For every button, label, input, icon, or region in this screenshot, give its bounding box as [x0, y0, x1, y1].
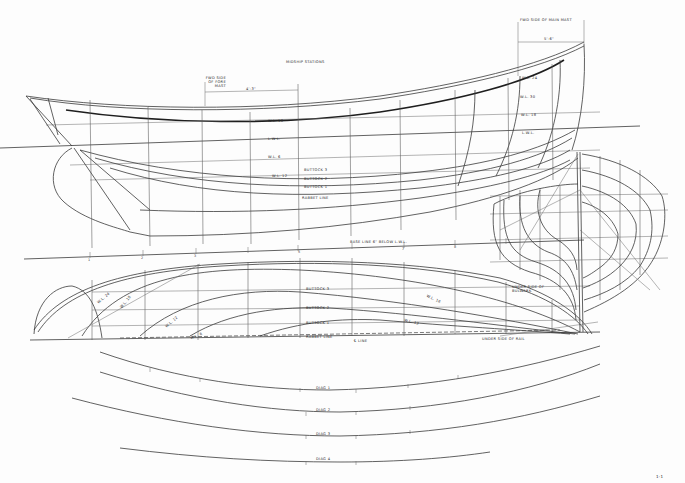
label-fwd-side-main-mast: FWD SIDE OF MAIN MAST: [520, 18, 572, 22]
station-5: 5: [298, 250, 300, 254]
label-lwl: L.W.L.: [268, 137, 280, 141]
label-under-side-rail: UNDER SIDE OF RAIL: [482, 337, 525, 341]
label-stern-wl-18: W.L. 18: [521, 113, 536, 117]
label-stern-lwl: L.W.L.: [522, 131, 534, 135]
station-2: 2: [141, 256, 143, 260]
station-1: 1: [88, 258, 90, 262]
label-wl-18: W.L. 18: [268, 119, 283, 123]
station-3: 3: [194, 254, 196, 258]
label-hb-buttock-1: BUTTOCK 1: [306, 321, 329, 325]
diagonals-view: [72, 346, 600, 465]
lines-drawing-sheet: FWD SIDE OF MAIN MAST 5'-6" FWD SIDE OF …: [0, 0, 685, 483]
label-rabbet-line: RABBET LINE: [302, 196, 329, 200]
label-hb-buttock-3: BUTTOCK 3: [306, 287, 329, 291]
body-plan-sheer-aft: [582, 154, 665, 312]
diag-2: [100, 364, 600, 412]
body-plan-sheer-fwd: [494, 184, 578, 204]
label-fore-mast-dim: 4'-3": [246, 87, 256, 91]
rail-line: [66, 60, 564, 122]
diag-3: [72, 396, 600, 436]
label-stern-wl-24: W.L. 24: [522, 76, 537, 80]
station-8: 8: [454, 245, 456, 249]
label-buttock-2: BUTTOCK 2: [304, 177, 327, 181]
label-diag-1: DIAG 1: [316, 386, 330, 390]
label-base-line: BASE LINE 6" BELOW L.W.L.: [350, 240, 407, 244]
rudder-outline: [53, 148, 150, 236]
label-stern-wl-30: W.L. 30: [520, 95, 535, 99]
half-breadth-view: [30, 258, 600, 340]
label-midship-stations: MIDSHIP STATIONS: [286, 60, 325, 64]
station-7: 7: [402, 247, 404, 251]
sheer-line: [26, 42, 584, 107]
label-diag-4: DIAG 4: [316, 457, 330, 461]
label-diag-2: DIAG 2: [316, 408, 330, 412]
label-hb-rabbet: RABBET LINE: [306, 335, 333, 339]
lines-drawing-svg: [0, 0, 685, 483]
diag-1: [100, 346, 600, 390]
label-centerline: ℄ LINE: [354, 339, 367, 343]
label-buttock-1: BUTTOCK 1: [304, 185, 327, 189]
label-fwd-side-fore-mast: FWD SIDE OF FORE MAST: [200, 76, 226, 88]
label-under-side-bulwark: UNDER SIDE OF BULWARK: [512, 285, 546, 293]
label-wl-6: W.L. 6: [268, 155, 281, 159]
label-buttock-3: BUTTOCK 3: [304, 168, 327, 172]
profile-view: [0, 20, 640, 248]
label-wl-12: W.L. 12: [272, 174, 287, 178]
sheet-mark: 1-1: [656, 474, 663, 479]
diag-4: [120, 448, 490, 462]
label-main-mast-dim: 5'-6": [544, 37, 554, 41]
label-diag-3: DIAG 3: [316, 432, 330, 436]
label-hb-buttock-2: BUTTOCK 2: [306, 306, 329, 310]
